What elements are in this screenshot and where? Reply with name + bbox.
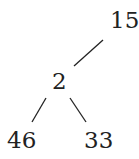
node-left-right: 33	[84, 129, 113, 152]
node-left-left: 46	[7, 129, 36, 152]
node-left: 2	[52, 70, 67, 93]
edge-2-to-33	[70, 98, 86, 122]
edge-15-to-2	[74, 40, 103, 66]
tree-diagram: 15 2 46 33	[0, 0, 139, 159]
node-root: 15	[110, 9, 139, 32]
edge-2-to-46	[32, 98, 46, 122]
